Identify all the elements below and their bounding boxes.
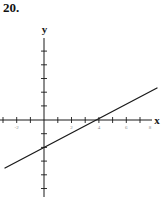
x-tick-label-neg2: -2: [15, 125, 20, 130]
y-axis-label: y: [42, 23, 48, 35]
plotted-line: [5, 88, 157, 168]
plotted-line-group: [5, 88, 157, 168]
x-tick-label-2: 2: [70, 125, 73, 130]
y-axis-group: y: [41, 23, 48, 197]
x-tick-label-6: 6: [125, 125, 128, 130]
x-axis-label: x: [154, 114, 160, 126]
coordinate-plane-graph: -2 2 4 6 8 x y: [0, 0, 168, 198]
figure-page: 20. -2 2 4 6 8 x: [0, 0, 168, 198]
x-axis-group: -2 2 4 6 8 x: [0, 114, 160, 130]
x-tick-label-4: 4: [98, 125, 101, 130]
x-tick-label-8: 8: [149, 125, 152, 130]
